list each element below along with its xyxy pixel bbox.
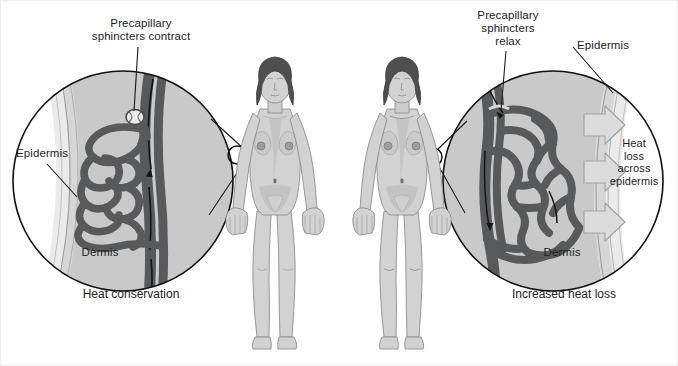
human-figure-left (226, 57, 324, 349)
label-epidermis-left: Epidermis (5, 147, 79, 160)
label-dermis-left: Dermis (65, 246, 135, 259)
callout-label-precapillary-right: Precapillary sphincters relax (456, 9, 560, 49)
caption-increased-heat-loss: Increased heat loss (471, 287, 657, 301)
illustration-canvas (1, 1, 678, 366)
human-figure-right (353, 57, 451, 349)
label-heat-loss-across-epidermis: Heat loss across epidermis (595, 137, 673, 188)
label-dermis-right: Dermis (527, 246, 597, 259)
caption-heat-conservation: Heat conservation (43, 287, 219, 301)
label-epidermis-right: Epidermis (561, 39, 645, 52)
precapillary-sphincter-left (126, 110, 144, 125)
left-skin-cross-section (11, 63, 237, 301)
callout-label-precapillary-left: Precapillary sphincters contract (61, 17, 221, 43)
thermoregulation-figure: Precapillary sphincters contract Epiderm… (0, 0, 678, 366)
